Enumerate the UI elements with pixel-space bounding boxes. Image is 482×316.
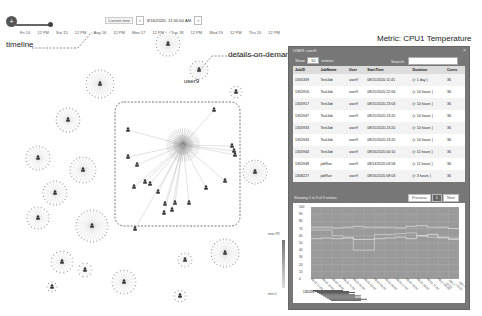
user-icon xyxy=(60,262,64,264)
job-bar xyxy=(317,292,355,293)
user-icon xyxy=(205,185,207,187)
table-cell: 08/15/2020 23:20 xyxy=(365,122,410,134)
user-icon xyxy=(91,223,93,225)
column-header[interactable]: JobName xyxy=(318,66,346,74)
metric-chart: 0102030405060708090100 08/15 12:0008/15 … xyxy=(293,203,465,303)
user-node xyxy=(126,154,130,158)
y-tick-label: 70 xyxy=(299,227,303,231)
user-node xyxy=(232,148,236,152)
user-icon xyxy=(98,84,102,86)
user-icon xyxy=(233,148,235,150)
user-node xyxy=(162,210,166,214)
previous-page-button[interactable]: Previous xyxy=(408,194,431,202)
table-cell: user9 xyxy=(347,98,365,110)
table-row[interactable]: 1305943TestJobuser908/15/2020 23:20(> 10… xyxy=(293,134,465,146)
user-icon xyxy=(183,260,187,262)
y-tick-label: 0 xyxy=(299,277,301,281)
table-cell: TestJob xyxy=(318,134,346,146)
jobs-table: JobIDJobNameUserStartTimeDurationCores 1… xyxy=(293,66,465,182)
table-row[interactable]: 1305339TestJobuser908/15/2020 11:41(> 1 … xyxy=(293,74,465,86)
user9-label: user9 xyxy=(184,78,200,84)
show-entries: Show 10 entries xyxy=(295,57,333,64)
user-icon xyxy=(197,70,201,72)
column-header[interactable]: Cores xyxy=(445,66,465,74)
table-cell: 36 xyxy=(445,158,465,170)
user-icon xyxy=(37,155,39,157)
user-icon xyxy=(178,296,182,298)
timeline-annotation-leader xyxy=(32,32,92,48)
user-icon xyxy=(133,229,137,231)
table-cell: 1305933 xyxy=(293,122,318,134)
user-cluster xyxy=(77,263,92,278)
x-axis: 08/15 12:0008/15 15:0008/15 18:0008/15 2… xyxy=(311,281,459,287)
table-row[interactable]: 1305917TestJobuser908/15/2020 23:03(> 10… xyxy=(293,98,465,110)
legend-gradient xyxy=(282,240,285,288)
table-cell: (> 10 hours ) xyxy=(410,134,445,146)
table-cell: 1305948 xyxy=(293,158,318,170)
user-icon xyxy=(126,157,130,159)
column-header[interactable]: StartTime xyxy=(365,66,410,74)
table-cell: 1305944 xyxy=(293,146,318,158)
column-header[interactable]: User xyxy=(347,66,365,74)
user-icon xyxy=(231,143,233,145)
table-cell: jobRun xyxy=(318,170,346,182)
table-row[interactable]: 1305947TestJobuser908/15/2020 23:20(> 10… xyxy=(293,110,465,122)
user-icon xyxy=(179,293,181,295)
entries-select[interactable]: 10 xyxy=(307,57,319,64)
table-cell: user9 xyxy=(347,110,365,122)
user-icon xyxy=(174,200,176,202)
table-cell: user9 xyxy=(347,134,365,146)
search-box: Search: xyxy=(391,57,458,65)
table-row[interactable]: 1305916TestJobuser908/15/2020 22:06(> 10… xyxy=(293,86,465,98)
user-node xyxy=(223,178,227,182)
user-icon xyxy=(132,187,136,189)
table-cell: 08/15/2020 23:20 xyxy=(365,134,410,146)
user-node xyxy=(212,107,216,111)
column-header[interactable]: JobID xyxy=(293,66,318,74)
user-node xyxy=(132,184,136,188)
user-node xyxy=(233,152,237,156)
user-icon xyxy=(99,81,101,83)
user-icon xyxy=(123,279,125,281)
job-bar xyxy=(327,298,361,299)
current-page-button[interactable]: 1 xyxy=(432,194,442,202)
table-cell: 08/15/2020 22:06 xyxy=(365,86,410,98)
table-cell: 1305916 xyxy=(293,86,318,98)
table-cell: (> 3 hours ) xyxy=(410,170,445,182)
next-page-button[interactable]: Next xyxy=(443,194,459,202)
user-node xyxy=(173,200,177,204)
table-cell: user9 xyxy=(347,146,365,158)
user-icon xyxy=(184,257,186,259)
user-icon xyxy=(162,213,166,215)
search-input[interactable] xyxy=(408,57,458,65)
plot-area xyxy=(311,207,459,279)
table-cell: user9 xyxy=(347,74,365,86)
legend-max: max 99 xyxy=(268,232,279,236)
table-row[interactable]: 1305944TestJobuser908/16/2020 00:10(> 11… xyxy=(293,146,465,158)
y-tick-label: 50 xyxy=(299,241,303,245)
y-tick-label: 60 xyxy=(299,234,303,238)
table-cell: 36 xyxy=(445,122,465,134)
user-cluster xyxy=(177,252,192,267)
panel-title: USER: user9 xyxy=(293,48,316,53)
y-tick-label: 100 xyxy=(299,205,304,209)
table-cell: 08/16/2020 00:10 xyxy=(365,146,410,158)
table-cell: 36 xyxy=(445,146,465,158)
column-header[interactable]: Duration xyxy=(410,66,445,74)
user-icon xyxy=(254,169,256,171)
user-node xyxy=(230,143,234,147)
table-cell: 08/15/2020 23:20 xyxy=(365,110,410,122)
table-cell: 36 xyxy=(445,86,465,98)
user-icon xyxy=(50,287,54,289)
table-row[interactable]: 1305933TestJobuser908/15/2020 23:20(> 10… xyxy=(293,122,465,134)
table-cell: (> 10 hours ) xyxy=(410,122,445,134)
user-icon xyxy=(149,181,151,183)
table-row[interactable]: 1305948jobRunuser908/14/2020 03:58(> 11 … xyxy=(293,158,465,170)
user-icon xyxy=(135,165,139,167)
user-node xyxy=(148,181,152,185)
user-icon xyxy=(37,215,39,217)
user-icon xyxy=(136,162,138,164)
close-icon[interactable]: × xyxy=(463,47,466,53)
pagination: Previous 1 Next xyxy=(408,194,459,202)
table-row[interactable]: 1308227jobRunuser908/16/2020 08:03(> 3 h… xyxy=(293,170,465,182)
